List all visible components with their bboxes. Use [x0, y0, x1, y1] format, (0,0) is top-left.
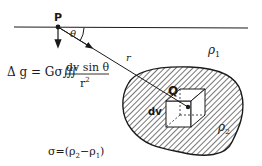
formula-numerator: dv sin θ [66, 61, 109, 74]
label-theta: θ [70, 28, 76, 39]
label-dv: dv [148, 106, 162, 117]
angle-arc [80, 28, 84, 41]
label-q: Q [168, 84, 178, 98]
point-q-dot [186, 105, 190, 109]
label-p: P [54, 11, 62, 24]
label-r: r [126, 52, 132, 63]
gravity-formula: Δ g = Gσ∭ dv sin θ r2 [7, 61, 109, 90]
label-rho1: ρ1 [207, 43, 220, 59]
gravity-diagram: P θ r Q dv ρ1 ρ2 Δ g = Gσ∭ dv sin θ r2 σ… [0, 0, 262, 166]
density-contrast: σ=(ρ2−ρ1) [48, 145, 104, 160]
surface-line [14, 27, 248, 28]
formula-denominator: r2 [80, 76, 90, 90]
